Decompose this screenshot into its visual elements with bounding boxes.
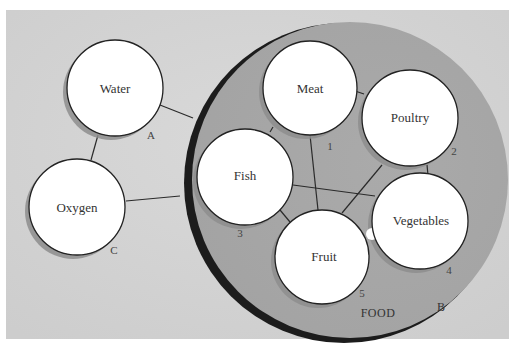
node-poultry-tag: 2 [451, 145, 457, 157]
node-fish-tag: 3 [237, 227, 243, 239]
node-fruit-label: Fruit [311, 249, 337, 264]
node-fruit-tag: 5 [359, 287, 365, 299]
node-fruit[interactable]: Fruit 5 [275, 210, 369, 304]
node-fish-label: Fish [234, 168, 257, 183]
node-meat-label: Meat [297, 81, 324, 96]
diagram-canvas: Water A Oxygen C Meat 1 Poultry 2 Fish 3… [0, 0, 515, 352]
food-group-letter: B [437, 300, 445, 314]
node-poultry[interactable]: Poultry 2 [362, 70, 458, 166]
node-vegetables-label: Vegetables [393, 213, 449, 228]
node-water-tag: A [147, 129, 155, 141]
node-vegetables-tag: 4 [446, 264, 452, 276]
node-oxygen[interactable]: Oxygen C [29, 159, 125, 256]
node-oxygen-label: Oxygen [56, 200, 98, 215]
node-poultry-label: Poultry [391, 110, 430, 125]
node-water-label: Water [100, 81, 131, 96]
food-group-label: FOOD [361, 306, 396, 320]
node-meat-tag: 1 [327, 140, 333, 152]
node-oxygen-tag: C [110, 244, 117, 256]
